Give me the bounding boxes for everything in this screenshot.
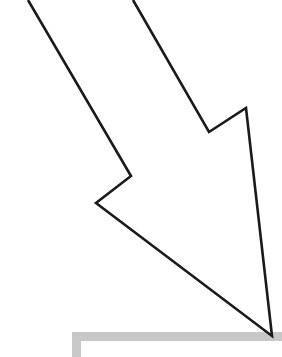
box-frame-vertical-bar xyxy=(72,332,81,357)
box-frame-horizontal-bar xyxy=(72,332,282,341)
figure-canvas xyxy=(0,0,282,357)
arrow-illustration xyxy=(0,0,282,357)
